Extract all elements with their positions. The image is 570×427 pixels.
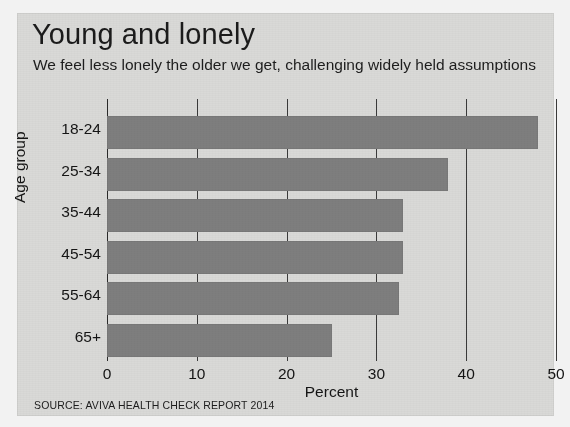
y-tick-label: 25-34 (21, 162, 101, 180)
bar-row: 65+ (107, 320, 556, 362)
plot-area: 18-2425-3435-4445-5455-6465+ 01020304050 (107, 99, 556, 361)
bar-row: 55-64 (107, 278, 556, 320)
chart-source: SOURCE: AVIVA HEALTH CHECK REPORT 2014 (34, 399, 274, 411)
bar-65+ (107, 324, 332, 357)
bar-row: 18-24 (107, 112, 556, 154)
y-tick-label: 35-44 (21, 203, 101, 221)
gridline-50 (556, 99, 557, 361)
bar-35-44 (107, 199, 403, 232)
bar-45-54 (107, 241, 403, 274)
y-tick-label: 55-64 (21, 286, 101, 304)
x-tick-label: 50 (547, 361, 564, 383)
x-tick-label: 0 (103, 361, 112, 383)
x-tick-label: 40 (458, 361, 475, 383)
bar-row: 35-44 (107, 195, 556, 237)
bar-series: 18-2425-3435-4445-5455-6465+ (107, 112, 556, 361)
chart-subtitle: We feel less lonely the older we get, ch… (33, 56, 536, 74)
x-tick-label: 20 (278, 361, 295, 383)
y-tick-label: 18-24 (21, 120, 101, 138)
bar-55-64 (107, 282, 399, 315)
bar-18-24 (107, 116, 538, 149)
x-tick-label: 30 (368, 361, 385, 383)
bar-row: 25-34 (107, 154, 556, 196)
chart-title: Young and lonely (32, 18, 255, 51)
chart-panel: Young and lonely We feel less lonely the… (17, 13, 554, 416)
chart-figure: Young and lonely We feel less lonely the… (0, 0, 570, 427)
bar-25-34 (107, 158, 448, 191)
bar-row: 45-54 (107, 237, 556, 279)
y-tick-label: 45-54 (21, 245, 101, 263)
y-tick-label: 65+ (21, 328, 101, 346)
x-tick-label: 10 (188, 361, 205, 383)
